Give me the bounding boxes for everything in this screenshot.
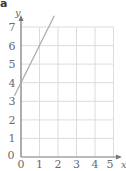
x-tick: 5 [107,158,114,171]
grid [21,27,114,157]
axes [19,15,123,160]
y-tick: 0 [8,149,15,162]
x-tick: 0 [18,158,25,171]
x-tick: 2 [55,158,62,171]
x-tick-labels: 0 1 2 3 4 5 [18,158,114,171]
y-tick: 6 [9,40,16,53]
x-tick: 1 [36,158,43,171]
chart: 7 6 5 4 3 2 1 0 0 1 2 3 4 5 y x [0,0,126,171]
y-tick: 7 [9,21,16,34]
x-axis-label: x [121,159,126,170]
x-tick: 3 [73,158,80,171]
y-tick: 4 [9,77,16,90]
y-tick: 3 [9,95,16,108]
y-tick: 2 [9,114,16,127]
x-tick: 4 [92,158,99,171]
y-tick: 5 [9,58,16,71]
y-tick-labels: 7 6 5 4 3 2 1 0 [8,21,16,162]
y-axis-label: y [14,7,21,18]
y-tick: 1 [9,132,16,145]
